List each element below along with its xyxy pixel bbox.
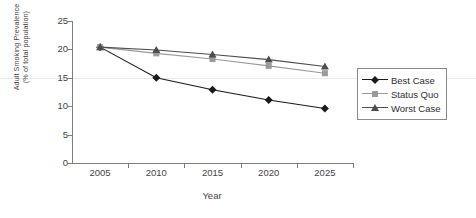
legend-item-worst-case[interactable]: Worst Case bbox=[362, 101, 440, 115]
data-point-marker bbox=[209, 86, 217, 94]
legend-label: Worst Case bbox=[388, 103, 440, 114]
x-tick-mark bbox=[184, 163, 185, 168]
legend-label: Best Case bbox=[388, 75, 435, 86]
legend-marker-triangle-icon bbox=[362, 101, 388, 115]
data-point-marker bbox=[371, 76, 379, 84]
data-point-marker bbox=[152, 74, 160, 82]
data-point-marker bbox=[321, 104, 329, 112]
data-point-marker bbox=[371, 104, 379, 111]
data-point-marker bbox=[266, 63, 272, 69]
data-point-marker bbox=[372, 91, 378, 97]
x-tick-mark bbox=[241, 163, 242, 168]
y-tick-mark bbox=[67, 135, 72, 136]
series-worst-case bbox=[96, 43, 329, 69]
y-tick-mark bbox=[67, 49, 72, 50]
line-chart: Adult Smoking Prevalence (% of total pop… bbox=[0, 0, 476, 218]
legend-item-best-case[interactable]: Best Case bbox=[362, 73, 440, 87]
legend-label: Status Quo bbox=[388, 89, 439, 100]
legend-item-status-quo[interactable]: Status Quo bbox=[362, 87, 440, 101]
x-tick-mark bbox=[297, 163, 298, 168]
legend-marker-diamond-icon bbox=[362, 73, 388, 87]
x-tick-mark bbox=[128, 163, 129, 168]
data-point-marker bbox=[322, 70, 328, 76]
data-point-marker bbox=[265, 96, 273, 104]
y-tick-mark bbox=[67, 106, 72, 107]
y-tick-mark bbox=[67, 21, 72, 22]
legend-marker-square-icon bbox=[362, 87, 388, 101]
y-tick-mark bbox=[67, 78, 72, 79]
chart-legend: Best CaseStatus QuoWorst Case bbox=[357, 68, 447, 120]
y-tick-mark bbox=[67, 163, 72, 164]
x-tick-mark bbox=[353, 163, 354, 168]
